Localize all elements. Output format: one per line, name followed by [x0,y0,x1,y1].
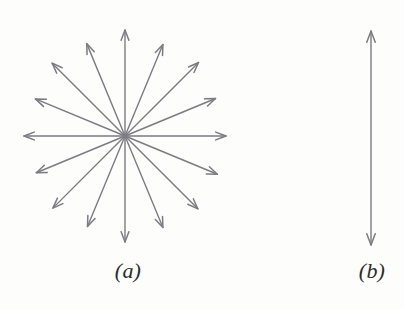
starburst-center-point [123,134,127,138]
starburst-arrow-group [24,30,226,242]
panel-label-a: (a) [98,258,158,284]
starburst-arrow-shaft-135 [52,63,125,136]
figure-root: (a) (b) [0,0,404,310]
starburst-arrow-shaft-45 [125,62,199,136]
single-vertical-arrow-group [367,31,375,245]
starburst-arrow-shaft-315 [125,136,198,209]
panel-label-b: (b) [342,258,402,284]
starburst-arrow-shaft-225 [53,136,125,208]
